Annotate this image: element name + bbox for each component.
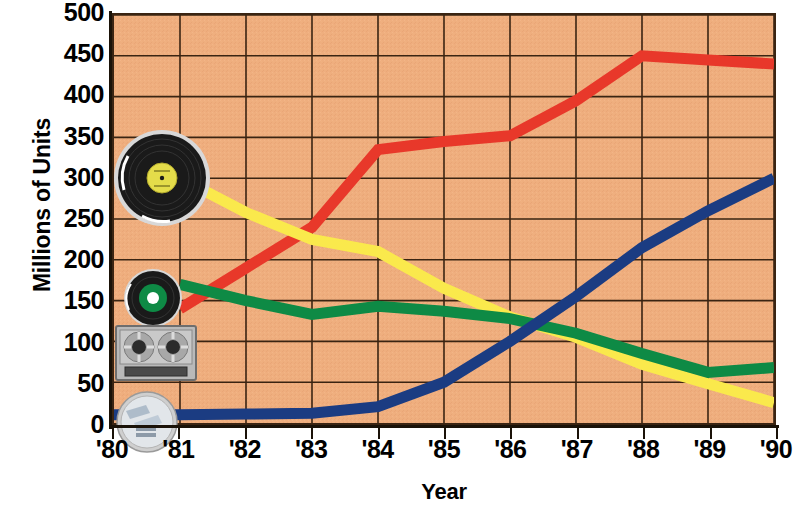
y-tick-label: 0 [42,412,104,437]
chart-canvas [114,15,774,423]
x-tick-label: '89 [675,437,745,462]
y-axis-tick-labels: 500450400350300250200150100500 [34,0,104,510]
y-tick-label: 150 [42,288,104,313]
y-tick-label: 450 [42,41,104,66]
y-tick-label: 300 [42,165,104,190]
x-axis-tick-labels: '80'81'82'83'84'85'86'87'88'89'90 [112,437,776,471]
x-tick-label: '90 [741,437,796,462]
y-tick-label: 400 [42,82,104,107]
y-tick-label: 100 [42,330,104,355]
cassette-tape-icon [115,325,197,381]
chart-figure: Millions of Units 5004504003503002502001… [0,0,796,510]
x-tick-label: '87 [542,437,612,462]
x-tick-label: '82 [210,437,280,462]
vinyl-lp-record-icon [112,128,212,228]
vinyl-single-record-icon [123,268,183,328]
x-axis-title: Year [112,479,776,505]
x-tick-label: '83 [276,437,346,462]
y-tick-label: 250 [42,206,104,231]
y-axis-spine [109,11,112,429]
x-tick-label: '88 [608,437,678,462]
plot-area [112,13,776,425]
y-tick-label: 50 [42,371,104,396]
x-tick-label: '81 [143,437,213,462]
y-tick-label: 350 [42,124,104,149]
x-tick-label: '85 [409,437,479,462]
y-tick-label: 200 [42,247,104,272]
x-tick-label: '86 [475,437,545,462]
x-tick-label: '84 [343,437,413,462]
y-tick-label: 500 [42,0,104,25]
x-tick-label: '80 [77,437,147,462]
